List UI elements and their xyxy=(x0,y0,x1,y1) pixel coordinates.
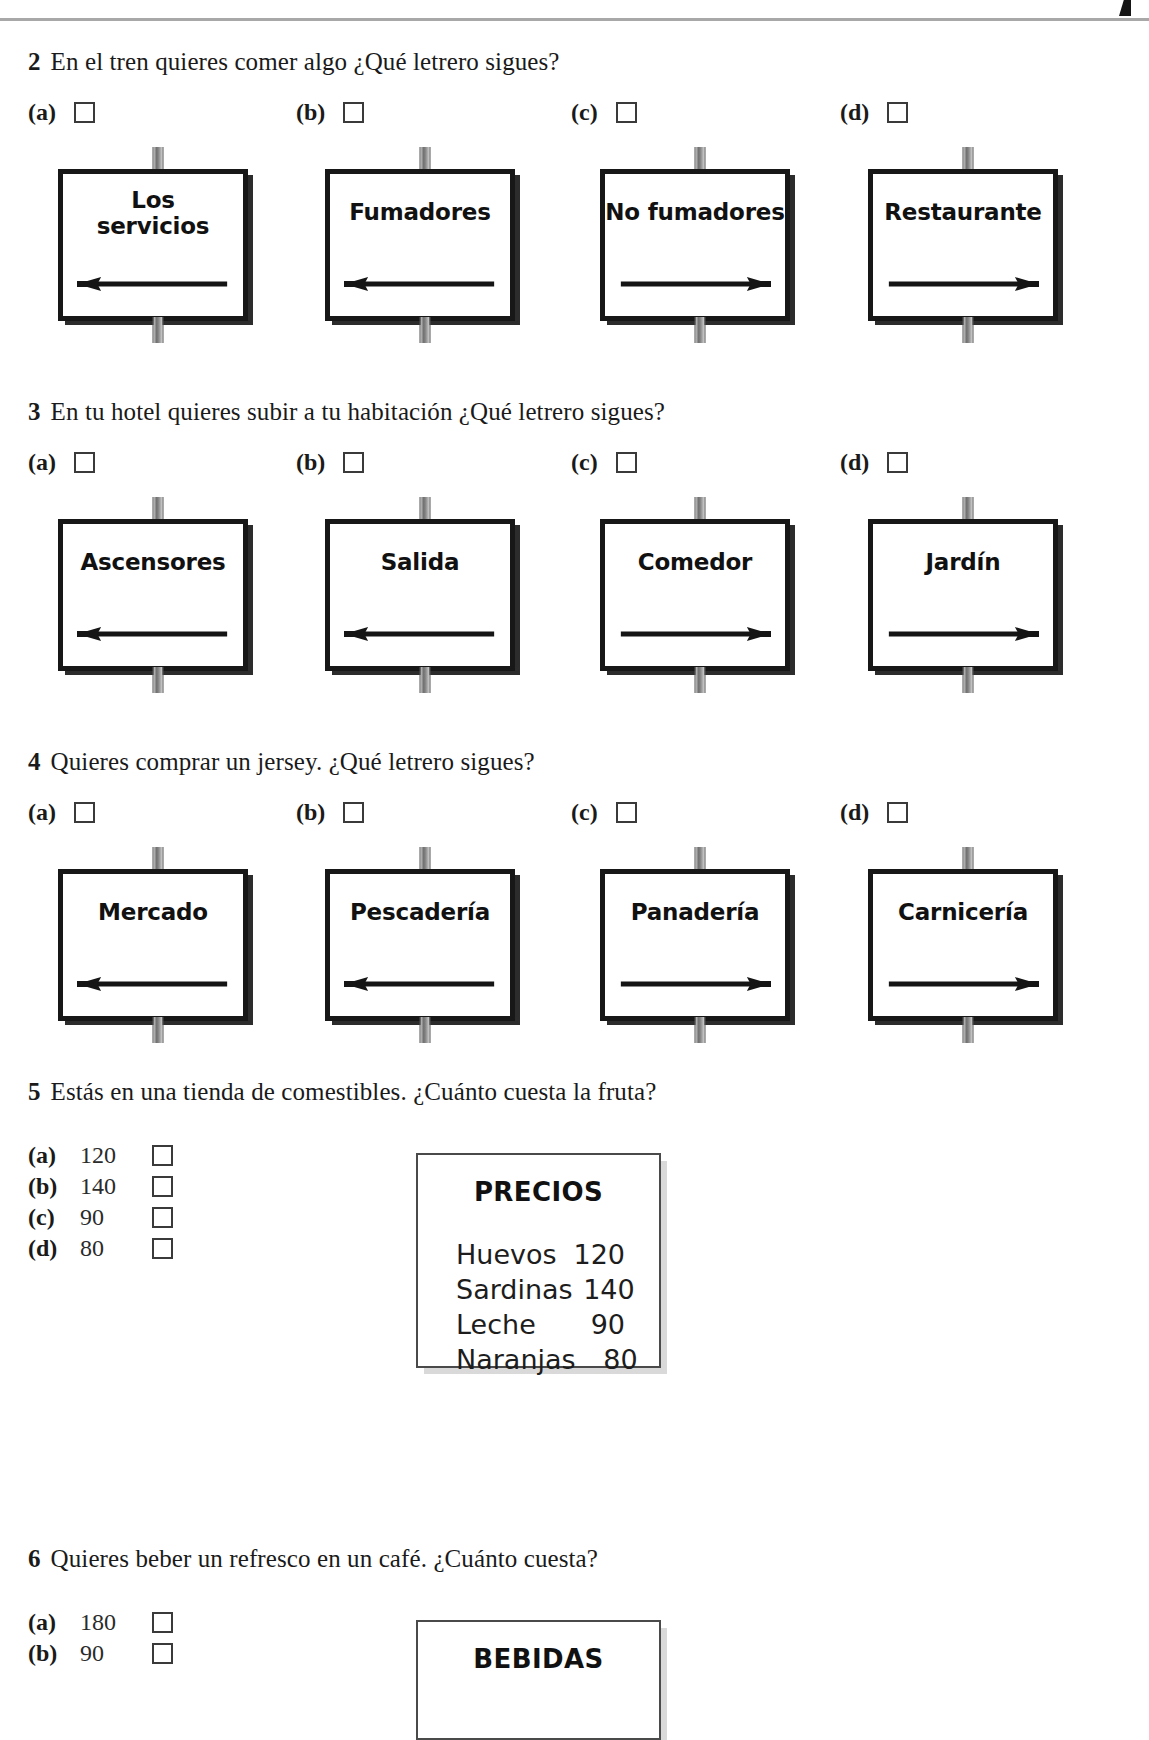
question-text-2: 2En el tren quieres comer algo ¿Qué letr… xyxy=(28,48,1118,77)
option-2-d[interactable]: (d) xyxy=(840,99,908,126)
signs-row-4: Mercado Pescadería Panadería Carnicería xyxy=(28,847,1118,1047)
sign-board: Mercado xyxy=(58,869,248,1021)
option-3-d[interactable]: (d) xyxy=(840,449,908,476)
sign-board: Panadería xyxy=(600,869,790,1021)
option-4-d[interactable]: (d) xyxy=(840,799,908,826)
option-3-b[interactable]: (b) xyxy=(296,449,364,476)
option-2-a[interactable]: (a) xyxy=(28,99,95,126)
sign-board: Jardín xyxy=(868,519,1058,671)
checkbox-4-b[interactable] xyxy=(343,802,364,823)
option-5-c[interactable]: (c) 90 xyxy=(28,1202,173,1233)
precios-item-name: Huevos xyxy=(456,1237,557,1272)
sign-arrow-right-icon xyxy=(887,976,1039,992)
option-letters-row-4: (a) (b) (c) (d) xyxy=(28,799,1118,839)
page-corner-mark xyxy=(1119,0,1131,16)
question-prompt-3: En tu hotel quieres subir a tu habitació… xyxy=(51,398,665,425)
precios-row: Naranjas 80 xyxy=(456,1342,625,1377)
sign-board: Salida xyxy=(325,519,515,671)
option-3-a[interactable]: (a) xyxy=(28,449,95,476)
option-value: 90 xyxy=(80,1204,152,1231)
option-letter: (a) xyxy=(28,99,56,126)
sign-post-bottom xyxy=(153,317,164,343)
sign-arrow-right-icon xyxy=(619,276,771,292)
precios-item-name: Naranjas xyxy=(456,1342,576,1377)
option-5-d[interactable]: (d) 80 xyxy=(28,1233,173,1264)
option-5-b[interactable]: (b) 140 xyxy=(28,1171,173,1202)
checkbox-4-c[interactable] xyxy=(616,802,637,823)
option-value: 90 xyxy=(80,1640,152,1667)
option-letters-row-3: (a) (b) (c) (d) xyxy=(28,449,1118,489)
sign-label: Restaurante xyxy=(873,200,1053,226)
checkbox-4-a[interactable] xyxy=(74,802,95,823)
checkbox-6-a[interactable] xyxy=(152,1612,173,1633)
checkbox-3-b[interactable] xyxy=(343,452,364,473)
sign-post-bottom xyxy=(695,1017,706,1043)
option-value: 80 xyxy=(80,1235,152,1262)
checkbox-4-d[interactable] xyxy=(887,802,908,823)
option-6-b[interactable]: (b) 90 xyxy=(28,1638,173,1669)
signs-row-3: Ascensores Salida Comedor Jardín xyxy=(28,497,1118,697)
question-number-6: 6 xyxy=(28,1545,41,1572)
page-header-rule xyxy=(0,18,1149,21)
sign-post-bottom xyxy=(963,667,974,693)
checkbox-3-a[interactable] xyxy=(74,452,95,473)
option-letter: (a) xyxy=(28,1142,80,1169)
option-letters-row-2: (a) (b) (c) (d) xyxy=(28,99,1118,139)
question-block-3: 3En tu hotel quieres subir a tu habitaci… xyxy=(28,398,1118,697)
question-prompt-5: Estás en una tienda de comestibles. ¿Cuá… xyxy=(51,1078,657,1105)
option-letter: (a) xyxy=(28,799,56,826)
sign-2-c: No fumadores xyxy=(600,147,800,343)
bebidas-title: BEBIDAS xyxy=(418,1644,659,1674)
option-letter: (c) xyxy=(571,99,598,126)
sign-label: Salida xyxy=(330,550,510,576)
question-text-4: 4Quieres comprar un jersey. ¿Qué letrero… xyxy=(28,748,1118,777)
sign-arrow-left-icon xyxy=(77,626,229,642)
checkbox-3-d[interactable] xyxy=(887,452,908,473)
question-text-3: 3En tu hotel quieres subir a tu habitaci… xyxy=(28,398,1118,427)
checkbox-5-c[interactable] xyxy=(152,1207,173,1228)
option-3-c[interactable]: (c) xyxy=(571,449,637,476)
sign-arrow-left-icon xyxy=(344,976,496,992)
sign-board: Ascensores xyxy=(58,519,248,671)
option-6-a[interactable]: (a) 180 xyxy=(28,1607,173,1638)
option-letter: (b) xyxy=(28,1173,80,1200)
sign-label: Panadería xyxy=(605,900,785,926)
precios-row: Leche 90 xyxy=(456,1307,625,1342)
checkbox-6-b[interactable] xyxy=(152,1643,173,1664)
option-4-a[interactable]: (a) xyxy=(28,799,95,826)
precios-item-price: 140 xyxy=(573,1272,635,1307)
option-value: 120 xyxy=(80,1142,152,1169)
sign-post-bottom xyxy=(695,317,706,343)
option-2-c[interactable]: (c) xyxy=(571,99,637,126)
question-block-4: 4Quieres comprar un jersey. ¿Qué letrero… xyxy=(28,748,1118,1047)
sign-arrow-right-icon xyxy=(619,976,771,992)
option-letter: (c) xyxy=(571,449,598,476)
checkbox-2-a[interactable] xyxy=(74,102,95,123)
question-prompt-4: Quieres comprar un jersey. ¿Qué letrero … xyxy=(51,748,535,775)
sign-post-bottom xyxy=(695,667,706,693)
question-number-4: 4 xyxy=(28,748,41,775)
precios-panel: PRECIOS Huevos 120 Sardinas 140 Leche 90… xyxy=(416,1153,661,1368)
checkbox-5-d[interactable] xyxy=(152,1238,173,1259)
checkbox-2-d[interactable] xyxy=(887,102,908,123)
question-text-6: 6Quieres beber un refresco en un café. ¿… xyxy=(28,1545,1118,1574)
checkbox-2-c[interactable] xyxy=(616,102,637,123)
sign-arrow-right-icon xyxy=(887,626,1039,642)
checkbox-5-b[interactable] xyxy=(152,1176,173,1197)
option-5-a[interactable]: (a) 120 xyxy=(28,1140,173,1171)
sign-arrow-left-icon xyxy=(344,626,496,642)
option-value: 180 xyxy=(80,1609,152,1636)
option-4-c[interactable]: (c) xyxy=(571,799,637,826)
question-prompt-6: Quieres beber un refresco en un café. ¿C… xyxy=(51,1545,598,1572)
checkbox-5-a[interactable] xyxy=(152,1145,173,1166)
sign-post-bottom xyxy=(963,1017,974,1043)
checkbox-2-b[interactable] xyxy=(343,102,364,123)
sign-4-b: Pescadería xyxy=(325,847,525,1043)
option-letter: (d) xyxy=(28,1235,80,1262)
option-4-b[interactable]: (b) xyxy=(296,799,364,826)
sign-3-b: Salida xyxy=(325,497,525,693)
sign-post-bottom xyxy=(153,1017,164,1043)
sign-board: Comedor xyxy=(600,519,790,671)
option-2-b[interactable]: (b) xyxy=(296,99,364,126)
checkbox-3-c[interactable] xyxy=(616,452,637,473)
